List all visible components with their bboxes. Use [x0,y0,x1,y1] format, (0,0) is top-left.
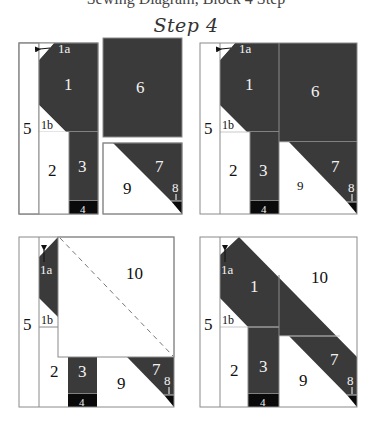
label-1a: 1a [221,262,234,277]
label-6: 6 [136,78,145,97]
label-2: 2 [50,362,59,381]
label-10: 10 [311,268,328,287]
panel-bottom-left: 1a 5 1b 2 3 4 7 8 9 10 [19,237,174,408]
label-7: 7 [152,360,161,379]
label-2: 2 [230,361,239,380]
label-5: 5 [204,315,213,334]
label-1b: 1b [222,118,234,132]
label-5: 5 [204,119,213,138]
label-3: 3 [78,157,87,176]
label-2: 2 [229,161,238,180]
label-8: 8 [164,373,171,388]
label-4: 4 [261,203,267,215]
label-7: 7 [330,350,339,369]
panel-top-left: 1a 1 5 1b 2 3 4 6 7 8 9 [19,38,182,215]
panel-bottom-right: 1a 1 5 1b 2 3 4 7 8 9 10 [200,237,357,408]
label-1b: 1b [222,313,234,327]
patch-8 [164,395,174,407]
quilt-diagram: 1a 1 5 1b 2 3 4 6 7 8 9 1a 1 5 1b [0,0,372,427]
panel-top-right: 1a 1 5 1b 2 3 4 6 7 8 9 [200,41,357,215]
label-8: 8 [172,180,179,195]
label-1b: 1b [41,118,53,132]
label-1: 1 [250,277,259,296]
label-6: 6 [311,82,320,101]
label-9: 9 [299,371,308,390]
label-7: 7 [155,157,164,176]
label-4: 4 [79,396,85,408]
label-3: 3 [259,357,268,376]
label-5: 5 [23,119,32,138]
label-9: 9 [117,374,126,393]
label-1b: 1b [41,313,53,327]
label-1a: 1a [239,41,252,56]
label-1a: 1a [40,262,53,277]
label-2: 2 [48,161,57,180]
label-7: 7 [331,157,340,176]
label-3: 3 [78,362,87,381]
label-9: 9 [123,179,132,198]
label-8: 8 [347,373,354,388]
label-1: 1 [64,75,73,94]
label-4: 4 [80,203,86,215]
label-3: 3 [259,161,268,180]
label-4: 4 [260,396,266,408]
label-9: 9 [297,178,304,193]
label-1a: 1a [58,41,71,56]
label-1: 1 [245,75,254,94]
label-10: 10 [126,264,143,283]
label-8: 8 [348,180,355,195]
label-5: 5 [23,315,32,334]
